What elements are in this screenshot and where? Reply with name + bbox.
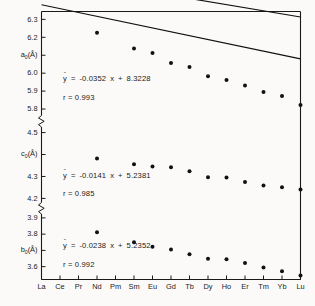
ytick-label-a0-3: 6.0 <box>9 69 38 76</box>
ytick-label-b0-3: 3.6 <box>9 263 38 270</box>
ytick-label-b0-0: 3.9 <box>9 214 38 221</box>
ytick-label-a0-4: 5.9 <box>9 87 38 94</box>
data-point-c0-Lu <box>299 187 303 191</box>
regression-equation-a0: ˉy = -0.0352 x + 8.3228 <box>63 75 151 83</box>
data-point-a0-Sm <box>132 47 136 51</box>
data-point-a0-Tb <box>188 65 192 69</box>
data-point-c0-Er <box>243 180 247 184</box>
data-point-a0-Eu <box>151 51 155 55</box>
data-point-b0-Eu <box>151 245 155 249</box>
chart-figure: LaCePrNdPmSmEuGdTbDyHoErTmYbLu6.36.2a0(Å… <box>0 0 315 306</box>
data-point-b0-Dy <box>206 257 210 261</box>
xtick-label-lu: Lu <box>290 283 312 290</box>
data-point-a0-Gd <box>169 61 173 65</box>
data-point-a0-Ho <box>225 78 229 82</box>
data-point-b0-Ho <box>225 257 229 261</box>
axis-label-b0: b0(Å) <box>3 246 38 253</box>
ytick-label-b0-1: 3.8 <box>9 230 38 237</box>
regression-equation-b0: ˉy = -0.0238 x + 5.2352 <box>63 242 151 250</box>
data-point-c0-Sm <box>132 162 136 166</box>
data-point-a0-Tm <box>262 90 266 94</box>
ytick-label-a0-0: 6.3 <box>9 16 38 23</box>
chart-canvas <box>0 0 315 306</box>
correlation-coefficient-a0: r = 0.993 <box>63 94 95 102</box>
data-point-b0-Gd <box>169 247 173 251</box>
data-point-c0-Eu <box>151 165 155 169</box>
data-point-c0-Gd <box>169 165 173 169</box>
data-point-b0-Nd <box>95 230 99 234</box>
data-point-b0-Yb <box>280 269 284 273</box>
data-point-b0-Lu <box>299 274 303 278</box>
ytick-label-a0-1: 6.2 <box>9 34 38 41</box>
axis-label-c0: c0(Å) <box>3 150 38 157</box>
data-point-c0-Yb <box>280 185 284 189</box>
data-point-a0-Nd <box>95 31 99 35</box>
data-point-a0-Er <box>243 84 247 88</box>
ytick-label-c0-3: 4.2 <box>9 195 38 202</box>
data-point-c0-Nd <box>95 156 99 160</box>
data-point-a0-Lu <box>299 103 303 107</box>
data-point-c0-Tm <box>262 183 266 187</box>
data-point-b0-Tm <box>262 266 266 270</box>
y-hat-symbol: ˉy <box>63 75 67 83</box>
data-point-a0-Dy <box>206 74 210 78</box>
correlation-coefficient-c0: r = 0.985 <box>63 190 95 198</box>
y-hat-symbol: ˉy <box>63 242 67 250</box>
correlation-coefficient-b0: r = 0.992 <box>63 261 95 269</box>
data-point-b0-Er <box>243 261 247 265</box>
y-hat-symbol: ˉy <box>63 172 67 180</box>
plot-frame <box>39 12 301 280</box>
series-layer <box>42 0 303 278</box>
ytick-label-a0-5: 5.8 <box>9 105 38 112</box>
data-point-c0-Tb <box>188 169 192 173</box>
data-point-b0-Tb <box>188 252 192 256</box>
data-point-a0-Yb <box>280 94 284 98</box>
ytick-label-c0-2: 4.3 <box>9 173 38 180</box>
axis-label-a0: a0(Å) <box>3 51 38 58</box>
data-point-c0-Ho <box>225 176 229 180</box>
regression-equation-c0: ˉy = -0.0141 x + 5.2381 <box>63 172 151 180</box>
data-point-c0-Dy <box>206 175 210 179</box>
ytick-label-c0-0: 4.5 <box>9 129 38 136</box>
